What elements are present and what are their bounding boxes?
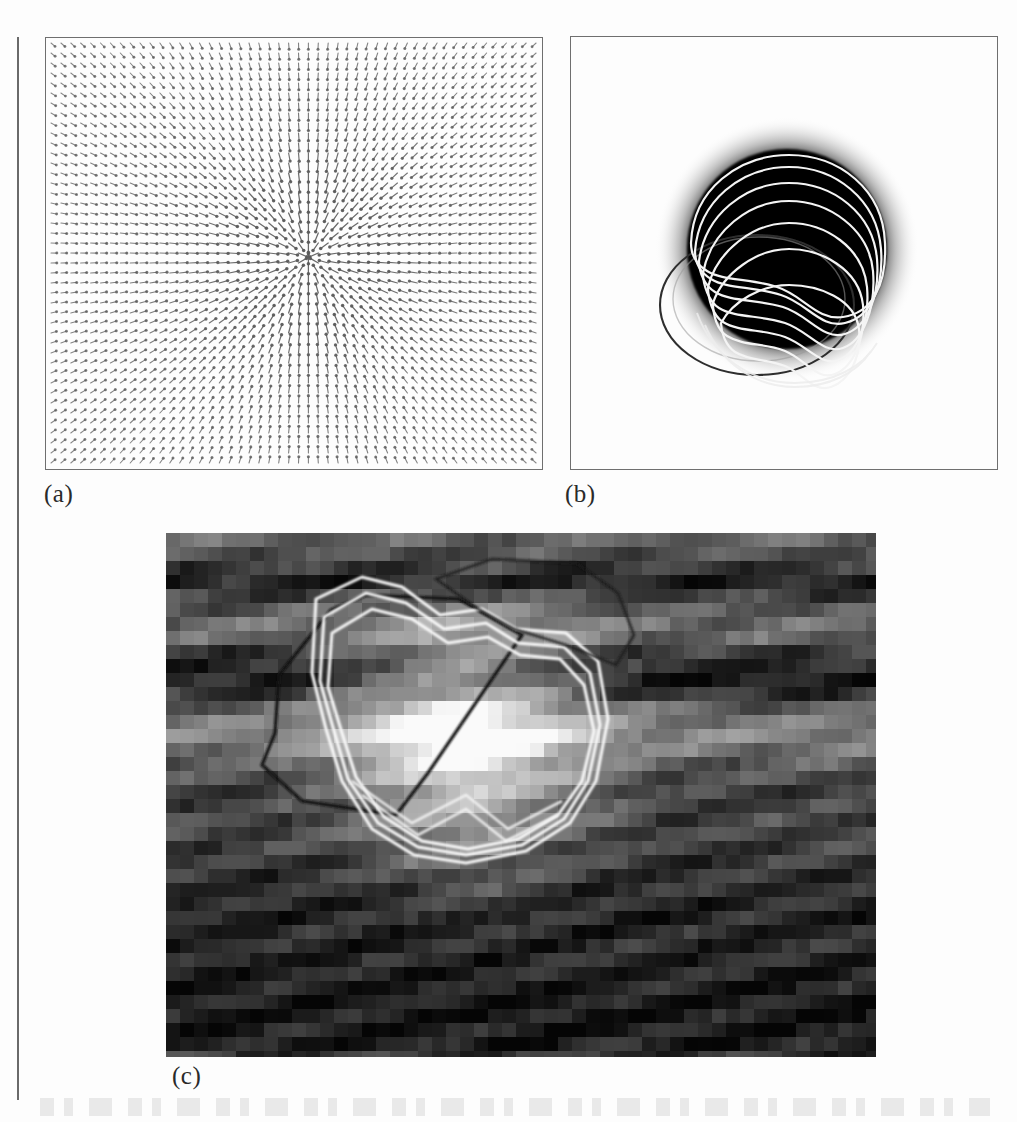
panel-a-label: (a) — [44, 480, 73, 508]
figure-page: (a) — [0, 0, 1017, 1122]
blob-contour-plot — [571, 37, 996, 468]
panel-c-ultrasound — [166, 533, 876, 1057]
scan-bleed-through-bottom — [40, 1098, 990, 1116]
panel-b-blob-contours — [570, 36, 998, 470]
panel-b-label: (b) — [565, 480, 596, 508]
ultrasound-pixel-grid — [166, 533, 876, 1057]
panel-c-label: (c) — [172, 1062, 201, 1090]
ultrasound-contour-plot — [166, 533, 876, 1057]
quiver-arrows — [51, 43, 536, 463]
panel-a-vector-field — [45, 37, 543, 470]
quiver-plot — [46, 38, 541, 468]
page-margin-rule — [17, 37, 19, 1100]
